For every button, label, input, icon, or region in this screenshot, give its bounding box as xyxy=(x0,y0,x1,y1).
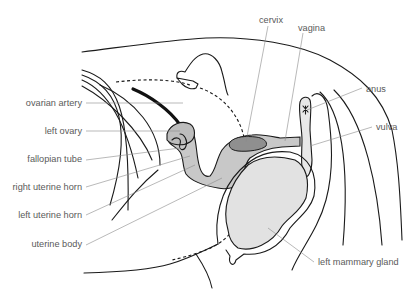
leader-right-uterine-horn xyxy=(86,156,190,187)
label-vulva: vulva xyxy=(376,122,398,132)
leader-vulva xyxy=(310,127,372,146)
label-ovarian-artery: ovarian artery xyxy=(26,98,83,108)
label-vagina: vagina xyxy=(298,23,326,33)
label-right-uterine-horn: right uterine horn xyxy=(13,182,82,192)
label-left-uterine-horn: left uterine horn xyxy=(18,210,82,220)
rib-line-4 xyxy=(82,86,152,160)
pelvic-bone-tip xyxy=(177,78,198,89)
label-fallopian-tube: fallopian tube xyxy=(27,154,82,164)
leader-left-uterine-horn xyxy=(86,165,195,215)
label-left-ovary: left ovary xyxy=(45,126,83,136)
label-uterine-body: uterine body xyxy=(31,239,82,249)
cervix xyxy=(229,137,266,152)
leader-anus xyxy=(307,88,362,110)
label-cervix: cervix xyxy=(259,15,283,25)
anatomy-diagram: ovarian artery left ovary fallopian tube… xyxy=(0,0,413,305)
leader-uterine-body xyxy=(86,178,222,245)
tail-line-3 xyxy=(334,90,382,245)
label-left-mammary-gland: left mammary gland xyxy=(318,257,399,267)
belly-outline xyxy=(84,244,218,273)
leader-cervix xyxy=(246,26,268,142)
leader-left-mammary-gland xyxy=(268,228,314,262)
tail-line-2 xyxy=(320,92,345,245)
label-anus: anus xyxy=(366,84,386,94)
hindleg-line xyxy=(196,254,212,288)
